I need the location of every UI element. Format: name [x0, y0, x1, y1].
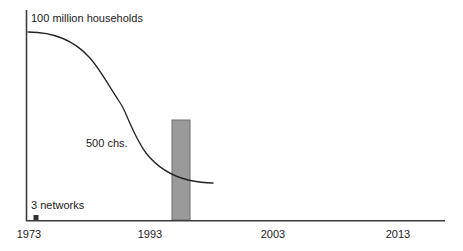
- chart-container: 100 million households 500 chs. 3 networ…: [0, 0, 463, 251]
- x-axis-tick-label-2003: 2003: [253, 228, 293, 241]
- annotation-100-million-households: 100 million households: [31, 12, 143, 25]
- baseline-square-marker: [34, 215, 39, 220]
- x-axis-tick-label-1973: 1973: [9, 228, 49, 241]
- highlight-bar: [172, 120, 190, 220]
- x-axis-tick-label-1993: 1993: [130, 228, 170, 241]
- chart-canvas: [0, 0, 463, 251]
- annotation-500-channels: 500 chs.: [86, 137, 128, 150]
- x-axis-tick-label-2013: 2013: [378, 228, 418, 241]
- annotation-3-networks: 3 networks: [31, 199, 84, 212]
